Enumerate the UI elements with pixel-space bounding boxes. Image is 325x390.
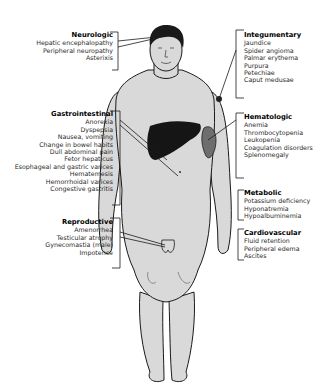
group-title: Hematologic — [244, 114, 313, 121]
list-item: Palmar erythema — [244, 54, 301, 61]
list-item: Esophageal and gastric varices — [15, 163, 113, 170]
list-item: Thrombocytopenia — [244, 129, 313, 136]
group-title: Gastrointestinal — [15, 111, 113, 118]
group-gastrointestinal: Gastrointestinal Anorexia Dyspepsia Naus… — [15, 111, 113, 192]
list-item: Peripheral neuropathy — [36, 47, 113, 54]
group-title: Metabolic — [244, 190, 310, 197]
group-hematologic: Hematologic Anemia Thrombocytopenia Leuk… — [244, 114, 313, 158]
group-integumentary: Integumentary Jaundice Spider angioma Pa… — [244, 32, 301, 84]
list-item: Dull abdominal pain — [15, 148, 113, 155]
list-item: Spider angioma — [244, 47, 301, 54]
list-item: Fetor hepaticus — [15, 155, 113, 162]
list-item: Fluid retention — [244, 237, 301, 244]
group-cardiovascular: Cardiovascular Fluid retention Periphera… — [244, 230, 301, 260]
list-item: Hyponatremia — [244, 205, 310, 212]
list-item: Leukopenia — [244, 136, 313, 143]
list-item: Hepatic encephalopathy — [36, 39, 113, 46]
list-item: Congestive gastritis — [15, 185, 113, 192]
list-item: Gynecomastia (male) — [45, 241, 113, 248]
list-item: Impotence — [45, 249, 113, 256]
list-item: Change in bowel habits — [15, 141, 113, 148]
list-item: Asterixis — [36, 54, 113, 61]
list-item: Amenorrhea — [45, 226, 113, 233]
list-item: Hemorrhoidal varices — [15, 178, 113, 185]
list-item: Petechiae — [244, 69, 301, 76]
list-item: Peripheral edema — [244, 245, 301, 252]
list-item: Testicular atrophy — [45, 234, 113, 241]
list-item: Nausea, vomiting — [15, 133, 113, 140]
list-item: Jaundice — [244, 39, 301, 46]
list-item: Dyspepsia — [15, 126, 113, 133]
left-leg — [139, 292, 164, 382]
list-item: Potassium deficiency — [244, 197, 310, 204]
right-leg — [169, 292, 195, 382]
group-title: Reproductive — [45, 219, 113, 226]
group-metabolic: Metabolic Potassium deficiency Hyponatre… — [244, 190, 310, 220]
torso — [116, 70, 215, 302]
list-item: Anemia — [244, 121, 313, 128]
group-title: Neurologic — [36, 32, 113, 39]
group-reproductive: Reproductive Amenorrhea Testicular atrop… — [45, 219, 113, 256]
list-item: Anorexia — [15, 118, 113, 125]
list-item: Splenomegaly — [244, 151, 313, 158]
group-neurologic: Neurologic Hepatic encephalopathy Periph… — [36, 32, 113, 62]
list-item: Hypoalbuminemia — [244, 212, 310, 219]
list-item: Hematemesis — [15, 170, 113, 177]
group-title: Cardiovascular — [244, 230, 301, 237]
list-item: Purpura — [244, 62, 301, 69]
group-title: Integumentary — [244, 32, 301, 39]
list-item: Coagulation disorders — [244, 144, 313, 151]
list-item: Ascites — [244, 252, 301, 259]
list-item: Caput medusae — [244, 76, 301, 83]
